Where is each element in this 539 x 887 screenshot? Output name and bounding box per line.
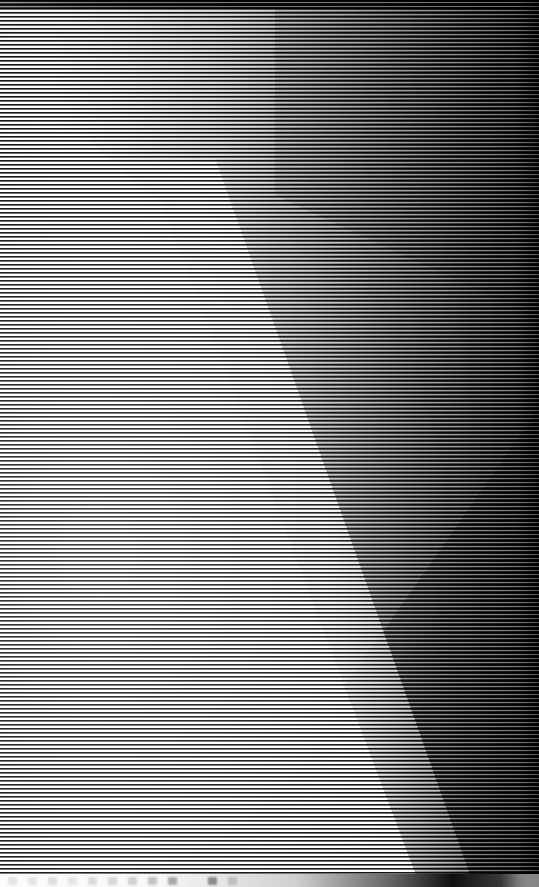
taskbar-icon-4[interactable]	[68, 877, 77, 885]
taskbar-icon-9[interactable]	[168, 877, 177, 885]
taskbar-icon-5[interactable]	[88, 877, 97, 885]
taskbar-icon-12[interactable]	[228, 877, 237, 885]
taskbar-icon-3[interactable]	[48, 877, 57, 885]
taskbar-icon-8[interactable]	[148, 877, 157, 885]
scanline-highlight-artifact	[0, 0, 539, 887]
taskbar-icon-10[interactable]	[188, 877, 197, 885]
taskbar-icon-7[interactable]	[128, 877, 137, 885]
corrupted-screen-capture: Severely corrupted screen capture: the f…	[0, 0, 539, 887]
bottom-taskbar-strip[interactable]	[0, 874, 539, 887]
taskbar-icon-6[interactable]	[108, 877, 117, 885]
taskbar-icon-2[interactable]	[28, 877, 37, 885]
taskbar-icon-1[interactable]	[8, 877, 17, 885]
taskbar-icon-11[interactable]	[208, 877, 217, 885]
